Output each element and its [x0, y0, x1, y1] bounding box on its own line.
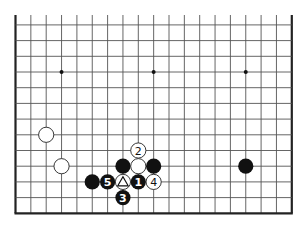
go-board-diagram: 25143: [0, 0, 306, 227]
white-stone-disc: [131, 159, 146, 174]
white-stone: 2: [131, 143, 146, 158]
black-stone: 3: [115, 190, 130, 205]
black-stone-disc: [238, 159, 253, 174]
star-point: [244, 70, 248, 74]
white-stone: [115, 174, 130, 189]
black-stone-disc: [115, 159, 130, 174]
white-stone: [39, 127, 54, 142]
white-stone-disc: [54, 159, 69, 174]
white-stone-disc: [39, 127, 54, 142]
move-number-label: 1: [134, 176, 142, 189]
black-stone: [85, 174, 100, 189]
black-stone: 1: [131, 174, 146, 189]
white-stone: [54, 159, 69, 174]
move-number-label: 4: [150, 176, 157, 189]
move-number-label: 5: [104, 176, 112, 189]
black-stone-disc: [85, 174, 100, 189]
black-stone: [238, 159, 253, 174]
black-stone: [115, 159, 130, 174]
white-stone: [131, 159, 146, 174]
black-stone: [146, 159, 161, 174]
black-stone-disc: [146, 159, 161, 174]
star-point: [60, 70, 64, 74]
black-stone: 5: [100, 174, 115, 189]
move-number-label: 3: [119, 192, 127, 205]
white-stone: 4: [146, 174, 161, 189]
move-number-label: 2: [135, 145, 142, 158]
star-point: [152, 70, 156, 74]
